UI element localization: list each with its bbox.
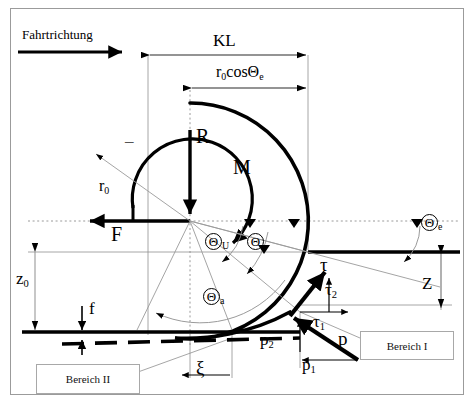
r0cos-theta-e-label: r0cosΘe bbox=[216, 64, 264, 82]
theta-a-label: Θa bbox=[203, 288, 224, 306]
theta-u-sub: U bbox=[222, 240, 229, 251]
deflection-f-label: f bbox=[89, 300, 95, 317]
pressure-p-arrow bbox=[294, 318, 358, 360]
sinkage-z-label: Z bbox=[422, 275, 432, 292]
p1-main: p bbox=[302, 355, 311, 374]
p2-sub: 2 bbox=[269, 339, 274, 350]
r0cos-rest: cosΘ bbox=[226, 63, 259, 80]
pressure-p2-label: p2 bbox=[260, 331, 274, 350]
tau2-sub: 2 bbox=[332, 289, 337, 300]
arc-theta-e bbox=[404, 226, 420, 262]
theta-label: Θ bbox=[247, 233, 264, 250]
z0-main: z bbox=[16, 269, 24, 288]
theta-u-symbol: Θ bbox=[205, 233, 222, 250]
theta-a-sub: a bbox=[220, 295, 224, 306]
pressure-p1-label: p1 bbox=[302, 356, 316, 375]
theta-a-symbol: Θ bbox=[203, 288, 220, 305]
sinkage-z0-label: z0 bbox=[16, 270, 29, 289]
theta-e-symbol: Θ bbox=[421, 214, 438, 231]
minus-sign-label: – bbox=[125, 132, 134, 149]
moment-M-label: M bbox=[233, 157, 251, 177]
force-F-label: F bbox=[111, 224, 122, 244]
kl-label: KL bbox=[213, 32, 236, 49]
pressure-p-label: p bbox=[338, 329, 348, 348]
r0cos-rest-sub: e bbox=[259, 71, 263, 82]
r0-sub: 0 bbox=[104, 185, 109, 196]
z0-sub: 0 bbox=[24, 278, 29, 289]
p1-sub: 1 bbox=[311, 364, 316, 375]
theta-e-label: Θe bbox=[421, 214, 442, 232]
p2-main: p bbox=[260, 330, 269, 349]
radius-r0-label: r0 bbox=[99, 178, 109, 196]
tau1-sub: 1 bbox=[320, 321, 325, 332]
travel-direction-label: Fahrtrichtung bbox=[22, 28, 93, 41]
theta-u-label: ΘU bbox=[205, 233, 229, 251]
shear-tau2-label: τ2 bbox=[325, 281, 337, 300]
shear-tau1-label: τ1 bbox=[313, 313, 325, 332]
theta-e-sub: e bbox=[438, 221, 442, 232]
tau2-main: τ bbox=[325, 280, 332, 299]
load-R-label: R bbox=[196, 126, 209, 146]
region-two-box: Bereich II bbox=[36, 364, 140, 394]
diagram-canvas: Fahrtrichtung KL r0cosΘe R M F r0 – ΘU Θ… bbox=[0, 0, 473, 409]
region-one-box: Bereich I bbox=[360, 331, 454, 360]
tau1-main: τ bbox=[313, 312, 320, 331]
theta-symbol: Θ bbox=[247, 233, 264, 250]
slip-xi-label: ξ bbox=[196, 358, 204, 377]
angle-arcs bbox=[156, 226, 420, 323]
axis-tick-arrowheads bbox=[244, 219, 423, 254]
shear-tau-label: τ bbox=[320, 255, 328, 274]
